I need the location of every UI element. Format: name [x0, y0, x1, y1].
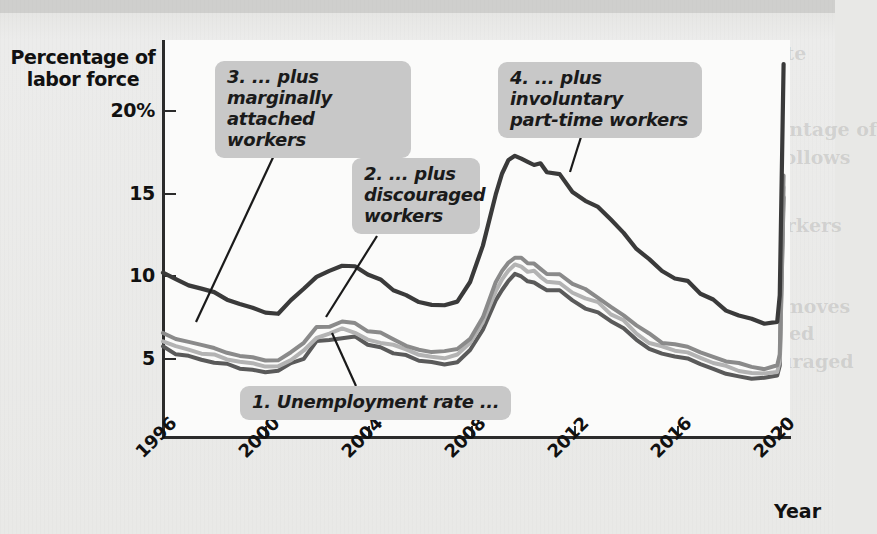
- callout-3-line-1: 3. ... plus marginally: [227, 67, 399, 109]
- callout-involuntary-part-time-workers[interactable]: 4. ... plus involuntary part-time worker…: [498, 62, 702, 138]
- callout-4-line-1: 4. ... plus involuntary: [510, 68, 690, 110]
- callout-4-line-2: part-time workers: [510, 110, 690, 131]
- callout-marginally-attached-workers[interactable]: 3. ... plus marginally attached workers: [215, 61, 411, 158]
- callout-2-line-2: discouraged: [364, 185, 468, 206]
- callout-2-line-3: workers: [364, 206, 468, 227]
- leader-line-2: [326, 236, 377, 317]
- callout-3-line-2: attached workers: [227, 109, 399, 151]
- callout-1-line-1: 1. Unemployment rate ...: [252, 392, 499, 413]
- callout-discouraged-workers[interactable]: 2. ... plus discouraged workers: [352, 158, 480, 234]
- leader-line-1: [332, 333, 356, 386]
- callout-2-line-1: 2. ... plus: [364, 164, 468, 185]
- callout-unemployment-rate[interactable]: 1. Unemployment rate ...: [240, 386, 511, 420]
